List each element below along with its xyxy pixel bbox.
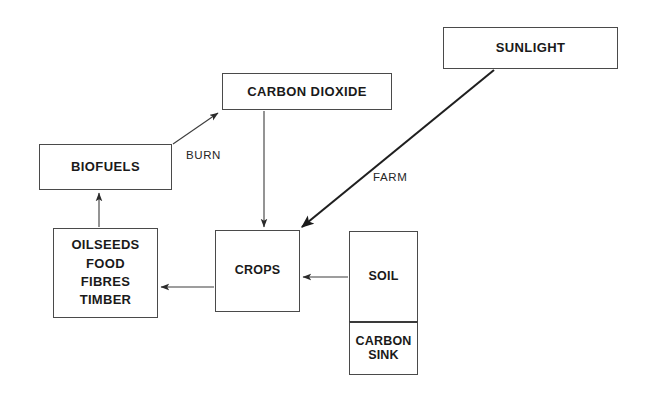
node-crops: CROPS	[215, 230, 300, 312]
node-biofuels-label: BIOFUELS	[71, 160, 140, 174]
node-carbon-dioxide: CARBON DIOXIDE	[222, 73, 392, 110]
node-carbon-sink: CARBON SINK	[349, 321, 418, 375]
node-sunlight: SUNLIGHT	[443, 27, 618, 69]
node-carbon-sink-label: CARBON SINK	[355, 335, 411, 361]
edge-biofuels-to-carbon-dioxide	[173, 113, 218, 144]
edge-label-burn: BURN	[186, 149, 221, 161]
node-crops-label: CROPS	[235, 264, 280, 277]
node-carbon-dioxide-label: CARBON DIOXIDE	[247, 85, 367, 99]
node-soil: SOIL	[349, 231, 418, 321]
edge-label-farm: FARM	[373, 171, 407, 183]
node-sunlight-label: SUNLIGHT	[496, 41, 566, 55]
node-products: OILSEEDS FOOD FIBRES TIMBER	[53, 228, 158, 318]
node-products-label: OILSEEDS FOOD FIBRES TIMBER	[71, 236, 139, 310]
node-biofuels: BIOFUELS	[39, 144, 172, 190]
node-soil-label: SOIL	[369, 270, 399, 283]
diagram-canvas: SUNLIGHT CARBON DIOXIDE BIOFUELS OILSEED…	[0, 0, 648, 409]
